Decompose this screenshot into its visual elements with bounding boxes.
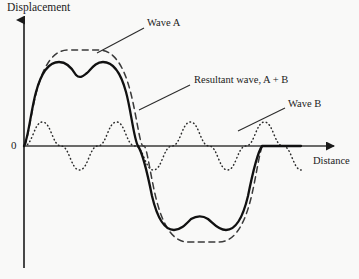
- wave-b-leader-line: [238, 108, 285, 131]
- resultant-wave-label: Resultant wave, A + B: [194, 75, 288, 86]
- x-axis-label: Distance: [313, 156, 350, 167]
- y-axis-label: Displacement: [7, 2, 70, 14]
- wave-a-leader-line: [97, 28, 144, 53]
- wave-superposition-figure: Displacement Distance 0 Wave A Resultant…: [0, 0, 359, 279]
- wave-plot: [0, 0, 359, 279]
- origin-label: 0: [11, 140, 17, 151]
- resultant-leader-line: [139, 85, 190, 110]
- wave-b-label: Wave B: [288, 99, 321, 110]
- wave-a-label: Wave A: [147, 18, 180, 29]
